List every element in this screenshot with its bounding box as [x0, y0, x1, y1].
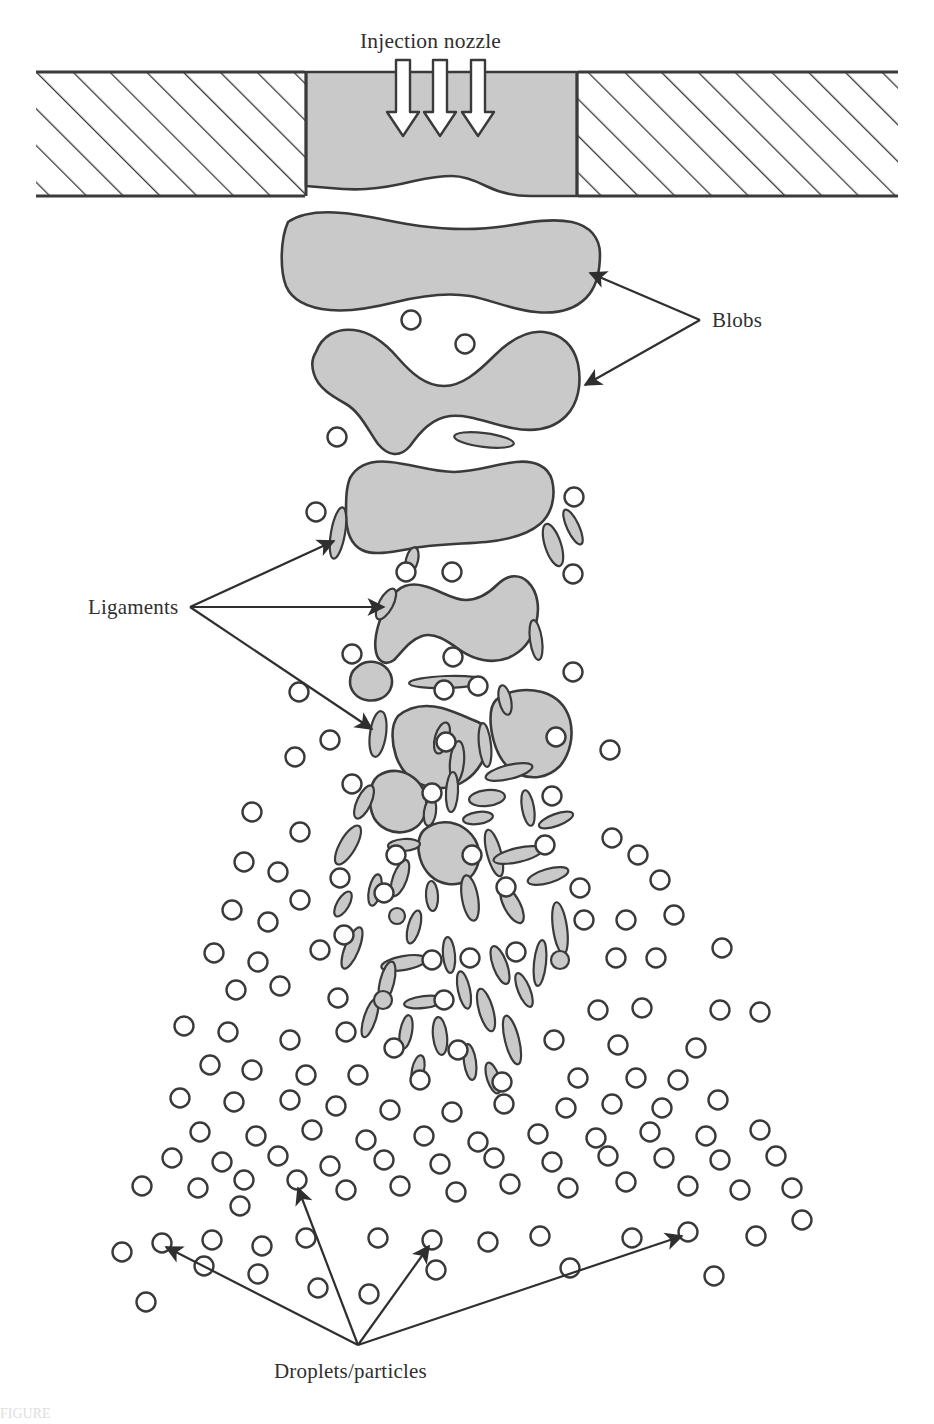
canvas-background	[0, 0, 934, 1424]
droplet	[653, 1099, 672, 1118]
droplet	[469, 1133, 488, 1152]
atomization-diagram: Injection nozzle Blobs Ligaments Droplet…	[0, 0, 934, 1424]
droplet	[629, 846, 648, 865]
droplet	[647, 949, 666, 968]
droplet	[291, 823, 310, 842]
droplet	[247, 1127, 266, 1146]
droplet	[713, 939, 732, 958]
droplet	[375, 1151, 394, 1170]
droplet	[113, 1243, 132, 1262]
droplet	[337, 1023, 356, 1042]
droplet	[485, 1149, 504, 1168]
droplet	[271, 977, 290, 996]
droplet	[655, 1149, 674, 1168]
droplet	[435, 991, 454, 1010]
droplet	[564, 565, 583, 584]
droplet	[328, 428, 347, 447]
figure-root: Injection nozzle Blobs Ligaments Droplet…	[0, 0, 934, 1424]
droplet	[531, 1227, 550, 1246]
droplet	[679, 1177, 698, 1196]
droplet	[297, 1066, 316, 1085]
nozzle-wall-assembly	[36, 60, 898, 196]
droplet	[231, 1197, 250, 1216]
droplet	[547, 728, 566, 747]
droplet	[288, 1171, 307, 1190]
droplet	[335, 926, 354, 945]
blob-7	[370, 771, 427, 832]
droplet	[360, 1285, 379, 1304]
droplet	[329, 989, 348, 1008]
droplet	[617, 911, 636, 930]
droplet	[783, 1179, 802, 1198]
droplet	[543, 1153, 562, 1172]
droplet	[153, 1234, 172, 1253]
droplet	[223, 901, 242, 920]
droplet	[469, 677, 488, 696]
droplet	[437, 733, 456, 752]
droplet	[731, 1181, 750, 1200]
droplet	[709, 1091, 728, 1110]
droplet	[243, 1061, 262, 1080]
droplet	[201, 1056, 220, 1075]
droplet	[259, 913, 278, 932]
droplet	[665, 906, 684, 925]
wall-hatch-left	[36, 72, 305, 196]
droplet	[679, 1223, 698, 1242]
droplet	[423, 784, 442, 803]
droplet	[493, 1073, 512, 1092]
droplet	[599, 1147, 618, 1166]
droplet	[767, 1147, 786, 1166]
droplet	[133, 1177, 152, 1196]
droplet	[309, 1279, 328, 1298]
droplet	[545, 1031, 564, 1050]
ligament-droplet	[551, 951, 569, 969]
droplet	[627, 1069, 646, 1088]
droplet	[281, 1091, 300, 1110]
droplet	[565, 488, 584, 507]
ligament-droplet	[389, 908, 405, 924]
droplet	[543, 787, 562, 806]
droplet	[479, 1233, 498, 1252]
droplet	[286, 748, 305, 767]
droplet	[321, 1157, 340, 1176]
droplet	[536, 836, 555, 855]
droplet	[203, 1231, 222, 1250]
droplet	[623, 1229, 642, 1248]
droplet	[369, 1229, 388, 1248]
droplet	[375, 884, 394, 903]
droplet	[529, 1125, 548, 1144]
label-droplets-particles: Droplets/particles	[274, 1359, 427, 1383]
label-injection-nozzle: Injection nozzle	[360, 29, 501, 53]
droplet	[559, 1179, 578, 1198]
droplet	[189, 1179, 208, 1198]
droplet	[603, 1095, 622, 1114]
droplet	[711, 1001, 730, 1020]
droplet	[297, 1229, 316, 1248]
droplet	[343, 645, 362, 664]
droplet	[495, 1095, 514, 1114]
droplet	[617, 1173, 636, 1192]
droplet	[303, 1121, 322, 1140]
droplet	[697, 1127, 716, 1146]
label-blobs: Blobs	[712, 308, 762, 332]
droplet	[641, 1123, 660, 1142]
droplet	[435, 681, 454, 700]
droplet	[269, 1147, 288, 1166]
droplet	[443, 1103, 462, 1122]
droplet	[444, 648, 463, 667]
injection-flow-arrows	[387, 60, 494, 136]
droplet	[381, 1101, 400, 1120]
droplet	[427, 1261, 446, 1280]
droplet	[137, 1293, 156, 1312]
caption-fragment: FIGURE	[0, 1406, 934, 1424]
ligament-droplet	[374, 991, 392, 1009]
droplet	[747, 1227, 766, 1246]
droplet	[751, 1121, 770, 1140]
wall-hatch-right	[578, 72, 898, 196]
droplet	[243, 803, 262, 822]
droplet	[327, 1097, 346, 1116]
droplet	[609, 1036, 628, 1055]
droplet	[633, 999, 652, 1018]
droplet	[337, 1181, 356, 1200]
blob-9	[350, 662, 392, 701]
